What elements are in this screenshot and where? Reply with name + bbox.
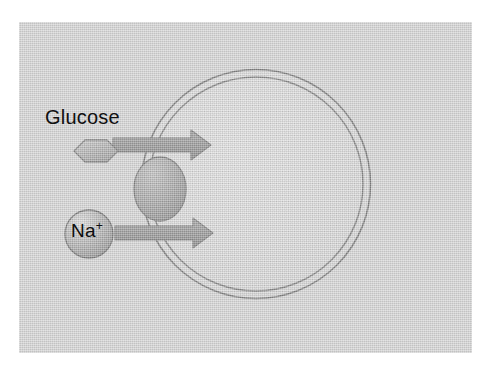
diagram-panel: Glucose Na+ bbox=[19, 22, 472, 353]
glucose-hexagon bbox=[74, 140, 118, 162]
glucose-hexagon-texture bbox=[74, 140, 118, 162]
sodium-label-base: Na bbox=[71, 220, 96, 241]
glucose-label: Glucose bbox=[45, 107, 120, 127]
sodium-label: Na+ bbox=[71, 221, 103, 240]
sodium-label-charge: + bbox=[96, 219, 103, 233]
figure-root: Glucose Na+ bbox=[0, 0, 490, 378]
protein-texture bbox=[134, 157, 186, 221]
membrane-transport-protein bbox=[134, 157, 186, 221]
diagram-canvas bbox=[19, 22, 472, 353]
